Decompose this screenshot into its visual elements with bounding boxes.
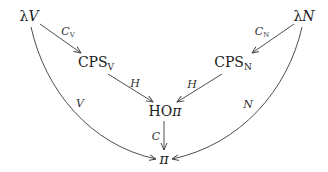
label-h-left-main: H — [130, 77, 140, 90]
label-c-down: C — [152, 131, 160, 142]
node-cps-n: CPSN — [214, 55, 252, 72]
label-c-v: CV — [61, 26, 74, 39]
node-ho-pi-base: HO — [149, 103, 173, 119]
node-lambda-v: λV — [20, 9, 39, 23]
node-cps-v: CPSV — [78, 55, 114, 72]
arrow-lambda-v-to-pi — [31, 27, 156, 159]
label-h-right: H — [187, 79, 197, 90]
label-v-curve: V — [76, 98, 84, 109]
label-c-n-sub: N — [263, 31, 269, 39]
node-lambda-n: λN — [293, 9, 314, 23]
node-cps-n-base: CPS — [214, 54, 244, 70]
arrow-cps-n-to-ho-pi — [177, 74, 222, 102]
node-lambda-n-base: λ — [293, 8, 302, 24]
label-n-curve-main: N — [243, 98, 253, 111]
label-h-right-main: H — [187, 78, 197, 91]
node-pi-var: π — [159, 151, 168, 167]
node-lambda-v-var: V — [28, 8, 38, 24]
label-c-v-sub: V — [70, 31, 75, 39]
node-lambda-n-var: N — [302, 8, 314, 24]
node-pi: π — [159, 152, 168, 166]
node-cps-v-sub: V — [108, 62, 115, 72]
label-c-down-main: C — [152, 130, 160, 143]
node-cps-v-base: CPS — [78, 54, 108, 70]
node-lambda-v-base: λ — [20, 8, 29, 24]
node-cps-n-sub: N — [244, 62, 252, 72]
label-n-curve: N — [243, 99, 253, 110]
diagram-edges — [0, 0, 328, 172]
label-c-n: CN — [255, 26, 270, 39]
node-ho-pi: HOπ — [149, 104, 182, 118]
node-ho-pi-var: π — [172, 103, 181, 119]
label-v-curve-main: V — [76, 97, 84, 110]
label-h-left: H — [130, 78, 140, 89]
